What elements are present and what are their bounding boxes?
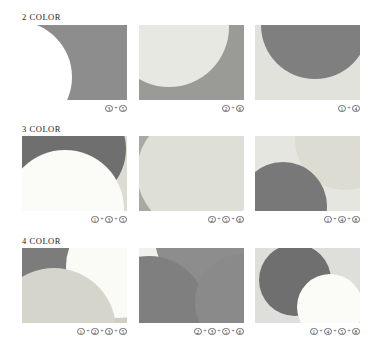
plus-symbol: +: [231, 328, 235, 334]
circled-number: 2: [194, 328, 202, 336]
plus-symbol: +: [114, 216, 118, 222]
row-header-3: 4 COLOR: [22, 236, 61, 246]
panel-4color-1[interactable]: [22, 248, 127, 323]
plus-symbol: +: [333, 216, 337, 222]
circled-number: 4: [338, 216, 346, 224]
panel-caption: 1+3+5: [22, 215, 127, 223]
circle-shape-2: [139, 136, 244, 211]
circled-number: 1: [77, 328, 85, 336]
circled-number: 6: [236, 216, 244, 224]
circled-number: 6: [236, 105, 244, 113]
panel-2color-3[interactable]: [255, 25, 360, 100]
circled-number: 6: [236, 328, 244, 336]
circled-number: 5: [119, 216, 127, 224]
plus-symbol: +: [333, 328, 337, 334]
plus-symbol: +: [203, 328, 207, 334]
panel-caption: 1+4+8: [255, 215, 360, 223]
plus-symbol: +: [231, 216, 235, 222]
panel-caption: 2+3+5+6: [139, 327, 244, 335]
plus-symbol: +: [217, 328, 221, 334]
panel-4color-3[interactable]: [255, 248, 360, 323]
panel-3color-3[interactable]: [255, 136, 360, 211]
plus-symbol: +: [100, 328, 104, 334]
plus-symbol: +: [231, 105, 235, 111]
circled-number: 1: [310, 328, 318, 336]
plus-symbol: +: [100, 216, 104, 222]
circled-number: 8: [352, 328, 360, 336]
plus-symbol: +: [319, 328, 323, 334]
panel-2color-2[interactable]: [139, 25, 244, 100]
circled-number: 5: [222, 216, 230, 224]
circled-number: 3: [105, 216, 113, 224]
plus-symbol: +: [347, 216, 351, 222]
circled-number: 1: [324, 216, 332, 224]
plus-symbol: +: [217, 216, 221, 222]
circled-number: 4: [324, 328, 332, 336]
circled-number: 5: [338, 328, 346, 336]
panel-caption: 3+5: [22, 104, 127, 112]
plus-symbol: +: [347, 328, 351, 334]
circled-number: 3: [208, 328, 216, 336]
circled-number: 2: [222, 105, 230, 113]
panel-2color-1[interactable]: [22, 25, 127, 100]
plus-symbol: +: [114, 328, 118, 334]
panel-3color-2[interactable]: [139, 136, 244, 211]
panel-4color-2[interactable]: [139, 248, 244, 323]
plus-symbol: +: [114, 105, 118, 111]
circled-number: 5: [222, 328, 230, 336]
circled-number: 3: [105, 328, 113, 336]
circled-number: 1: [91, 216, 99, 224]
panel-caption: 1+2+3+5: [22, 327, 127, 335]
swatch-sheet: 2 COLOR3+52+61+43 COLOR1+3+52+5+61+4+84 …: [0, 0, 379, 344]
circled-number: 5: [119, 105, 127, 113]
circled-number: 2: [91, 328, 99, 336]
circled-number: 2: [208, 216, 216, 224]
plus-symbol: +: [347, 105, 351, 111]
plus-symbol: +: [86, 328, 90, 334]
circled-number: 3: [105, 105, 113, 113]
circled-number: 4: [352, 105, 360, 113]
panel-caption: 1+4: [255, 104, 360, 112]
panel-3color-1[interactable]: [22, 136, 127, 211]
panel-caption: 2+6: [139, 104, 244, 112]
panel-caption: 2+5+6: [139, 215, 244, 223]
circled-number: 8: [352, 216, 360, 224]
row-header-1: 2 COLOR: [22, 12, 61, 22]
circled-number: 1: [338, 105, 346, 113]
row-header-2: 3 COLOR: [22, 124, 61, 134]
panel-caption: 1+4+5+8: [255, 327, 360, 335]
circled-number: 5: [119, 328, 127, 336]
